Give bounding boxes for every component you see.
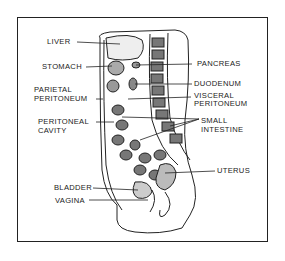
liver-shape xyxy=(106,35,143,60)
spine-icon xyxy=(149,33,190,165)
stomach-shape xyxy=(108,61,124,75)
label-small-intestine-line1: SMALL xyxy=(201,117,227,125)
label-peritoneal-cavity-line2: CAVITY xyxy=(38,127,67,135)
label-vagina: VAGINA xyxy=(55,197,85,205)
label-parietal-peritoneum-line2: PERITONEUM xyxy=(34,95,88,103)
label-visceral-peritoneum-line2: PERITONEUM xyxy=(194,100,248,108)
body-outline xyxy=(99,30,195,233)
label-parietal-peritoneum-line1: PARIETAL xyxy=(34,86,72,94)
uterus-shape xyxy=(156,164,176,190)
leader-lines xyxy=(77,42,215,200)
label-stomach: STOMACH xyxy=(42,63,82,71)
label-pancreas: PANCREAS xyxy=(197,60,241,68)
label-uterus: UTERUS xyxy=(217,167,250,175)
label-liver: LIVER xyxy=(47,38,70,46)
label-peritoneal-cavity-line1: PERITONEAL xyxy=(38,118,89,126)
label-duodenum: DUODENUM xyxy=(194,80,241,88)
label-small-intestine-line2: INTESTINE xyxy=(201,126,243,134)
label-bladder: BLADDER xyxy=(54,184,92,192)
